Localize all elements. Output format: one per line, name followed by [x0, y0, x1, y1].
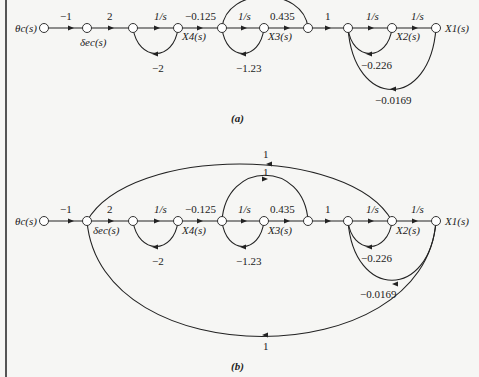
- label-x2: X2(s): [395, 224, 420, 237]
- gain-minus-1: −1: [60, 10, 72, 22]
- label-theta-c: θc(s): [15, 22, 37, 35]
- gain-minus-0-125: −0.125: [185, 10, 216, 22]
- node-8: [344, 217, 353, 226]
- node-5: [218, 217, 227, 226]
- gain-fb-x3: −1.23: [236, 255, 262, 267]
- caption-a: (a): [231, 112, 244, 125]
- label-x3: X3(s): [267, 224, 292, 237]
- gain-outer-bottom: 1: [263, 340, 269, 352]
- node-5: [218, 24, 227, 33]
- gain-2: 2: [107, 203, 113, 215]
- gain-fb-x2: −0.226: [361, 252, 392, 264]
- panel-b: θc(s) δec(s) X4(s) X3(s) X2(s) X1(s) 1 1…: [15, 148, 469, 373]
- label-x3: X3(s): [267, 30, 292, 43]
- gain-minus-1: −1: [60, 203, 72, 215]
- gain-2: 2: [107, 10, 113, 22]
- gain-1-over-s-b: 1/s: [238, 10, 251, 22]
- node-x1: [432, 24, 441, 33]
- signal-flow-figure: θc(s) δec(s) X4(s) X3(s) X2(s) X1(s) −1 …: [0, 0, 479, 377]
- label-x4: X4(s): [181, 30, 206, 43]
- gain-1-over-s-d: 1/s: [411, 10, 424, 22]
- gain-1-over-s-a: 1/s: [154, 10, 167, 22]
- gain-fb-x2: −0.226: [361, 59, 392, 71]
- gain-fb-x1: −0.0169: [360, 288, 397, 300]
- label-x1: X1(s): [444, 215, 469, 228]
- node-7: [304, 217, 313, 226]
- gain-ff-x3: 1: [263, 166, 269, 178]
- node-7: [304, 24, 313, 33]
- label-x1: X1(s): [444, 22, 469, 35]
- gain-1: 1: [325, 10, 331, 22]
- node-3: [129, 24, 138, 33]
- gain-minus-0-125: −0.125: [185, 203, 216, 215]
- gain-outer-top: 1: [263, 148, 269, 160]
- gain-0-435: 0.435: [270, 10, 295, 22]
- node-3: [129, 217, 138, 226]
- node-input: [40, 24, 49, 33]
- label-x2: X2(s): [395, 30, 420, 43]
- gain-fb-x3: −1.23: [236, 62, 262, 74]
- gain-1-over-s-a: 1/s: [154, 203, 167, 215]
- gain-1-over-s-b: 1/s: [238, 203, 251, 215]
- panel-a: θc(s) δec(s) X4(s) X3(s) X2(s) X1(s) −1 …: [15, 0, 469, 125]
- label-theta-c: θc(s): [15, 215, 37, 228]
- gain-fb-x1: −0.0169: [375, 94, 412, 106]
- node-x1: [432, 217, 441, 226]
- gain-fb-x4: −2: [152, 255, 164, 267]
- node-input: [40, 217, 49, 226]
- label-x4: X4(s): [181, 224, 206, 237]
- gain-fb-x4: −2: [152, 62, 164, 74]
- node-delta: [83, 24, 92, 33]
- label-delta-ec: δec(s): [93, 224, 120, 237]
- gain-1-over-s-c: 1/s: [366, 203, 379, 215]
- label-delta-ec: δec(s): [80, 36, 107, 49]
- node-delta: [83, 217, 92, 226]
- gain-1-over-s-d: 1/s: [411, 203, 424, 215]
- node-8: [344, 24, 353, 33]
- gain-1-over-s-c: 1/s: [366, 10, 379, 22]
- gain-0-435: 0.435: [270, 203, 295, 215]
- gain-1: 1: [325, 203, 331, 215]
- caption-b: (b): [231, 360, 244, 373]
